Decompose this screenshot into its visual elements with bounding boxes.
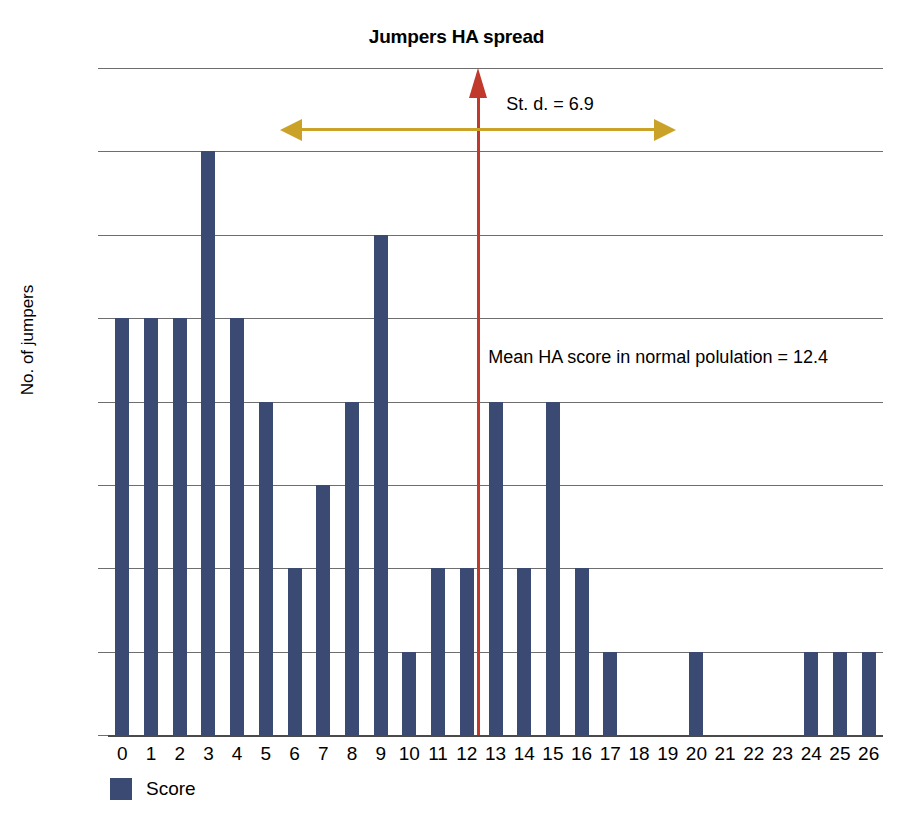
x-axis-tick-label: 12 [456,744,477,763]
legend-label-score: Score [146,778,196,800]
chart-page: Jumpers HA spread No. of jumpers 8.007.0… [0,0,913,830]
bar [402,652,416,735]
x-axis-tick-label: 7 [318,744,329,763]
y-axis-tick-mark [98,568,108,569]
y-axis-tick-mark [98,235,108,236]
x-axis-tick-label: 20 [686,744,707,763]
bar [115,318,129,735]
bar [833,652,847,735]
x-axis-tick-label: 15 [542,744,563,763]
bar [517,568,531,735]
x-axis-tick-label: 10 [399,744,420,763]
x-axis-tick-label: 5 [261,744,272,763]
bar [201,151,215,735]
bar [575,568,589,735]
x-axis-tick-label: 18 [628,744,649,763]
arrow-right-icon [654,119,676,141]
bar [316,485,330,735]
bar [489,402,503,736]
x-axis-tick-label: 23 [772,744,793,763]
gridline [108,151,883,152]
page-title: Jumpers HA spread [0,26,913,48]
std-dev-line [302,128,654,131]
x-axis-tick-label: 3 [203,744,214,763]
y-axis-tick-mark [98,652,108,653]
mean-arrow-icon [469,68,487,98]
arrow-left-icon [280,119,302,141]
y-axis-tick-mark [98,402,108,403]
bar [259,402,273,736]
plot-area: 8.007.006.005.004.003.002.001.000 012345… [108,68,883,735]
x-axis-tick-label: 14 [514,744,535,763]
bar [460,568,474,735]
x-axis-tick-label: 19 [657,744,678,763]
gridline [108,318,883,319]
bar [144,318,158,735]
bar [804,652,818,735]
y-axis-tick-mark [98,68,108,69]
x-axis-tick-label: 4 [232,744,243,763]
bar [603,652,617,735]
y-axis-title: No. of jumpers [18,250,38,430]
x-axis-tick-label: 1 [146,744,157,763]
bar [374,235,388,735]
gridline [108,235,883,236]
y-axis-tick-mark [98,318,108,319]
y-axis-tick-mark [98,735,108,736]
y-axis-tick-mark [98,151,108,152]
x-axis-tick-label: 26 [858,744,879,763]
bar [288,568,302,735]
legend-swatch-score [110,778,132,800]
x-axis-tick-label: 16 [571,744,592,763]
bar [546,402,560,736]
bar [862,652,876,735]
gridline [108,68,883,69]
mean-line [477,98,480,735]
x-axis-tick-label: 11 [428,744,448,763]
x-axis-tick-label: 13 [485,744,506,763]
mean-annotation-label: Mean HA score in normal polulation = 12.… [488,347,828,368]
x-axis-tick-label: 6 [289,744,300,763]
x-axis-tick-label: 9 [375,744,386,763]
x-axis-tick-label: 17 [600,744,621,763]
x-axis-tick-label: 25 [829,744,850,763]
bar [345,402,359,736]
std-dev-annotation-label: St. d. = 6.9 [506,94,594,115]
x-axis-tick-label: 2 [174,744,185,763]
bar [689,652,703,735]
y-axis-tick-mark [98,485,108,486]
bar [173,318,187,735]
x-axis-tick-label: 21 [715,744,736,763]
x-axis-tick-label: 22 [743,744,764,763]
x-axis-line [108,735,883,737]
bar [431,568,445,735]
x-axis-tick-label: 8 [347,744,358,763]
x-axis-tick-label: 0 [117,744,128,763]
legend: Score [110,778,196,800]
x-axis-tick-label: 24 [801,744,822,763]
bar [230,318,244,735]
